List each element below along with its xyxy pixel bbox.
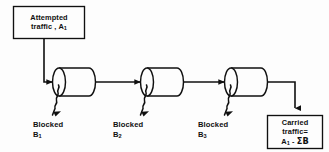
attempted-traffic-label: Attempted traffic , A1: [13, 13, 85, 32]
trunk-group-1: [53, 68, 96, 96]
carried-traffic-sum-term: ΣB: [297, 136, 309, 146]
input-connector-line: [44, 39, 53, 83]
diagram-canvas: Attempted traffic , A1 Carried traffic= …: [0, 0, 329, 152]
blocked-label-3: Blocked B3: [198, 120, 228, 140]
carried-traffic-line1: Carried: [267, 118, 323, 127]
carried-traffic-line2: traffic=: [267, 127, 323, 136]
carried-traffic-operator: -: [292, 137, 295, 146]
blocked-label-2-subscript: 2: [119, 133, 122, 139]
attempted-traffic-line1: Attempted: [13, 13, 85, 22]
carried-traffic-label: Carried traffic= A1 - ΣB: [267, 118, 323, 146]
carried-traffic-subscript: 1: [287, 140, 290, 146]
blocked-label-3-subscript: 3: [204, 133, 207, 139]
attempted-traffic-line2: traffic , A1: [13, 22, 85, 31]
blocked-label-2-text: Blocked: [113, 120, 143, 130]
blocked-label-1: Blocked B1: [33, 120, 63, 140]
trunk-group-2: [141, 68, 184, 96]
blocked-label-3-symbol-row: B3: [198, 130, 228, 140]
trunk-group-3-face: [225, 68, 238, 96]
trunk-group-3: [225, 68, 268, 96]
carried-traffic-formula: A1 - ΣB: [267, 137, 323, 146]
trunk-group-2-face: [141, 68, 154, 96]
trunk-group-1-face: [53, 68, 66, 96]
blocked-label-2-symbol-row: B2: [113, 130, 143, 140]
blocked-label-2: Blocked B2: [113, 120, 143, 140]
blocked-label-1-subscript: 1: [39, 133, 42, 139]
blocked-label-3-text: Blocked: [198, 120, 228, 130]
attempted-traffic-subscript: 1: [64, 26, 67, 32]
blocked-label-1-text: Blocked: [33, 120, 63, 130]
attempted-traffic-line2-prefix: traffic ,: [31, 22, 57, 31]
blocked-label-1-symbol-row: B1: [33, 130, 63, 140]
output-connector-line: [267, 82, 295, 108]
